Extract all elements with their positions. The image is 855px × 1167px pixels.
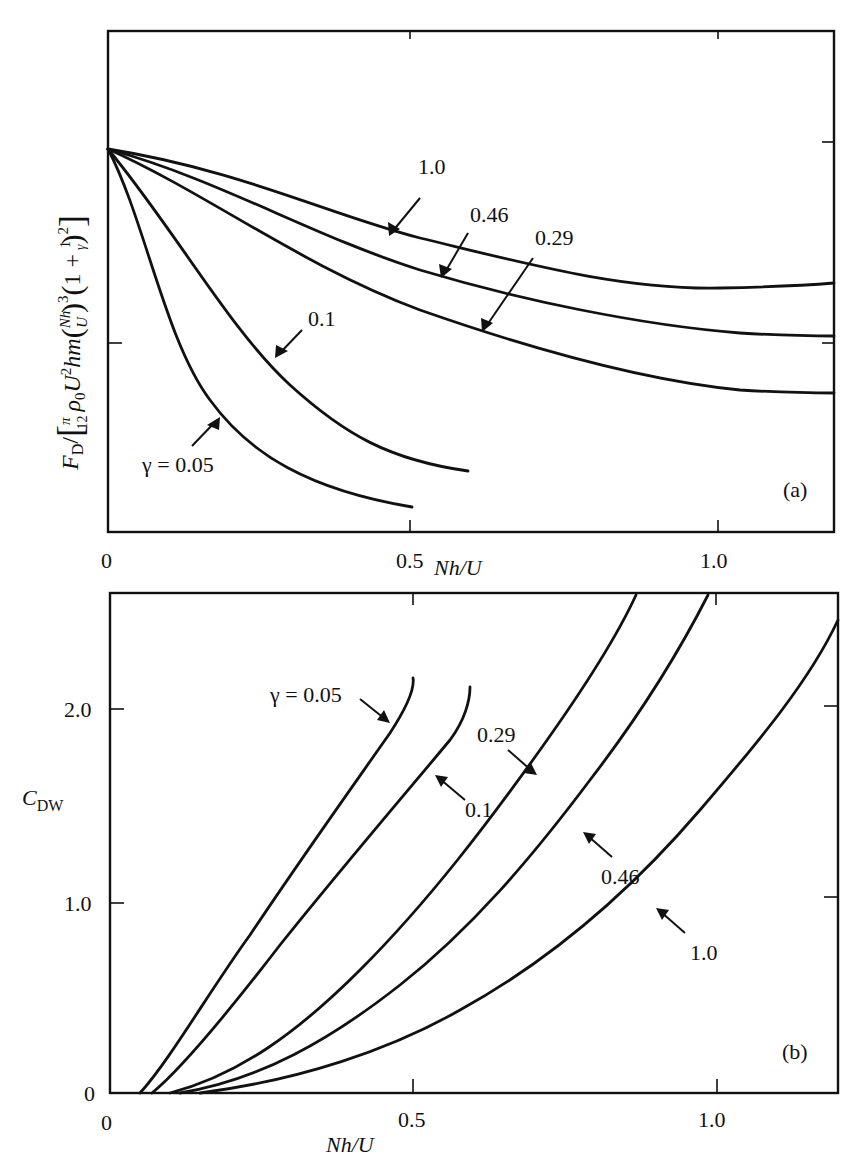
ylabel-F-sub: D bbox=[69, 444, 86, 456]
label-b-0.1: 0.1 bbox=[465, 797, 493, 822]
ylabel-cube: 3 bbox=[55, 296, 71, 304]
y-tick-label-2.0-b: 2.0 bbox=[64, 697, 92, 722]
ylabel-rho-sub: 0 bbox=[72, 393, 88, 401]
curve-a-gamma-0.29 bbox=[108, 149, 834, 393]
curve-a-gamma-0.46 bbox=[108, 149, 834, 336]
ylabel-one-plus: 1 + bbox=[59, 248, 85, 286]
ylabel-b-sub: DW bbox=[37, 797, 65, 814]
curve-b-gamma-0.05 bbox=[140, 678, 413, 1093]
label-b-0.29: 0.29 bbox=[477, 722, 516, 747]
label-b-1.0: 1.0 bbox=[690, 940, 718, 965]
ylabel-12: 12 bbox=[75, 416, 90, 430]
arrow-a-0.1 bbox=[275, 330, 302, 358]
x-tick-label-0.5-a: 0.5 bbox=[396, 548, 424, 573]
arrow-a-1.0 bbox=[388, 198, 420, 236]
curve-b-gamma-0.1 bbox=[152, 687, 470, 1093]
arrow-b-0.46 bbox=[583, 832, 612, 857]
ylabel-F: F bbox=[57, 455, 83, 471]
ylabel-hm: hm bbox=[59, 338, 85, 367]
svg-text:FD/[π12ρ0U2hm(NhU)3(1 + 1γ)2]: FD/[π12ρ0U2hm(NhU)3(1 + 1γ)2] bbox=[50, 215, 92, 471]
x-axis-label-a: Nh/U bbox=[433, 555, 484, 580]
y-tick-label-1.0-b: 1.0 bbox=[64, 891, 92, 916]
curve-a-gamma-0.1 bbox=[108, 149, 468, 471]
x-tick-label-1.0-b: 1.0 bbox=[698, 1107, 726, 1132]
panel-b: γ = 0.05 0.1 0.29 0.46 1.0 (b) 2.0 1.0 0… bbox=[22, 593, 838, 1157]
ylabel-U-sup: 2 bbox=[58, 368, 74, 376]
y-axis-label-a: FD/[π12ρ0U2hm(NhU)3(1 + 1γ)2] bbox=[50, 215, 92, 471]
ylabel-U-den: U bbox=[74, 316, 90, 328]
ylabel-U: U bbox=[59, 374, 85, 393]
arrow-a-0.05 bbox=[192, 417, 220, 446]
panel-label-b: (b) bbox=[782, 1039, 808, 1064]
label-a-1.0: 1.0 bbox=[418, 154, 446, 179]
ylabel-pi: π bbox=[57, 417, 73, 425]
x-tick-label-1.0-a: 1.0 bbox=[700, 548, 728, 573]
arrow-a-0.46 bbox=[439, 233, 468, 278]
x-tick-label-0-b: 0 bbox=[101, 1110, 112, 1135]
x-tick-label-0.5-b: 0.5 bbox=[398, 1107, 426, 1132]
ylabel-rho: ρ bbox=[59, 400, 85, 413]
panel-label-a: (a) bbox=[783, 477, 807, 502]
arrow-a-0.29 bbox=[481, 258, 533, 332]
ylabel-square: 2 bbox=[55, 227, 71, 235]
ylabel-b-C: C bbox=[22, 785, 37, 810]
label-a-gamma-0.05: γ = 0.05 bbox=[141, 452, 214, 477]
plot-frame-b bbox=[110, 593, 838, 1093]
curve-b-gamma-0.29 bbox=[170, 595, 636, 1093]
label-b-0.46: 0.46 bbox=[601, 864, 640, 889]
x-tick-label-0-a: 0 bbox=[101, 548, 112, 573]
label-a-0.1: 0.1 bbox=[308, 306, 336, 331]
plot-frame-a bbox=[108, 31, 834, 532]
x-axis-label-b: Nh/U bbox=[325, 1132, 376, 1157]
label-b-gamma-0.05: γ = 0.05 bbox=[269, 682, 342, 707]
label-a-0.29: 0.29 bbox=[535, 225, 574, 250]
panel-a: 1.0 0.46 0.29 0.1 γ = 0.05 (a) 0 0.5 1.0… bbox=[50, 31, 834, 580]
figure: 1.0 0.46 0.29 0.1 γ = 0.05 (a) 0 0.5 1.0… bbox=[0, 0, 855, 1167]
label-a-0.46: 0.46 bbox=[470, 202, 509, 227]
arrow-b-0.1 bbox=[435, 775, 465, 800]
y-tick-label-0-b: 0 bbox=[84, 1081, 95, 1106]
arrow-b-0.05 bbox=[360, 699, 390, 723]
y-axis-label-b: CDW bbox=[22, 785, 64, 814]
arrow-b-1.0 bbox=[656, 908, 685, 933]
